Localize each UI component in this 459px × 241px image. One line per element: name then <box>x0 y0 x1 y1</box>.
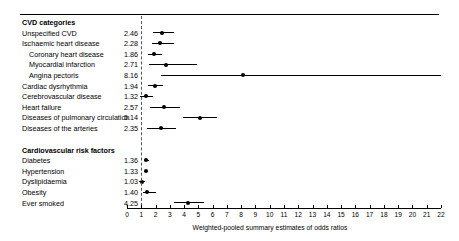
row-label: Unspecified CVD <box>22 29 77 38</box>
point-estimate-marker <box>164 63 168 67</box>
row-value: 2.35 <box>100 124 138 133</box>
row-value: 2.71 <box>100 60 138 69</box>
row-value: 8.16 <box>100 71 138 80</box>
x-axis-tick <box>156 205 157 208</box>
forest-plot: CVD categoriesUnspecified CVD2.46Ischaem… <box>0 0 459 241</box>
row-value: 2.28 <box>100 39 138 48</box>
x-axis-tick <box>298 205 299 208</box>
x-axis-tick <box>341 205 342 208</box>
point-estimate-marker <box>153 84 157 88</box>
row-value: 1.03 <box>100 177 138 186</box>
x-axis-tick <box>327 205 328 208</box>
row-value: 1.86 <box>100 50 138 59</box>
x-axis-tick <box>398 205 399 208</box>
point-estimate-marker <box>198 116 202 120</box>
x-axis-tick <box>198 205 199 208</box>
row-label: Ever smoked <box>22 199 64 208</box>
row-label: Diseases of the arteries <box>22 124 98 133</box>
point-estimate-marker <box>144 158 148 162</box>
point-estimate-marker <box>241 73 245 77</box>
x-axis-tick <box>241 205 242 208</box>
x-axis-tick <box>227 205 228 208</box>
row-value: 1.32 <box>100 92 138 101</box>
point-estimate-marker <box>159 126 163 130</box>
point-estimate-marker <box>186 201 190 205</box>
x-axis-tick <box>412 205 413 208</box>
x-axis-tick <box>127 205 128 208</box>
row-value: 5.14 <box>100 113 138 122</box>
x-axis-tick <box>213 205 214 208</box>
x-axis-tick <box>141 205 142 208</box>
top-rule <box>20 14 439 15</box>
x-axis-title: Weighted-pooled summary estimates of odd… <box>150 223 390 232</box>
confidence-interval <box>149 64 198 65</box>
row-value: 1.94 <box>100 82 138 91</box>
x-axis-tick <box>255 205 256 208</box>
point-estimate-marker <box>145 190 149 194</box>
x-axis-tick <box>370 205 371 208</box>
x-axis-tick <box>270 205 271 208</box>
confidence-interval <box>152 43 174 44</box>
row-value: 4.25 <box>100 199 138 208</box>
row-value: 2.46 <box>100 29 138 38</box>
x-axis-tick-label: 22 <box>432 211 450 219</box>
x-axis-tick <box>427 205 428 208</box>
point-estimate-marker <box>152 52 156 56</box>
row-label: Angina pectoris <box>29 71 79 80</box>
point-estimate-marker <box>144 169 148 173</box>
x-axis-tick <box>170 205 171 208</box>
row-label: Ischaemic heart disease <box>22 39 100 48</box>
x-axis-tick <box>355 205 356 208</box>
row-label: Cardiac dysrhythmia <box>22 82 88 91</box>
x-axis-tick <box>441 205 442 208</box>
reference-line <box>141 16 142 206</box>
x-axis-tick <box>384 205 385 208</box>
point-estimate-marker <box>160 31 164 35</box>
row-label: Hypertension <box>22 167 64 176</box>
confidence-interval <box>161 75 441 76</box>
row-label: Diabetes <box>22 156 50 165</box>
section-heading-1: Cardiovascular risk factors <box>22 146 115 155</box>
row-value: 1.33 <box>100 167 138 176</box>
row-value: 1.36 <box>100 156 138 165</box>
point-estimate-marker <box>158 41 162 45</box>
row-label: Dyslipidaemia <box>22 177 67 186</box>
section-heading-0: CVD categories <box>22 18 75 27</box>
x-axis-tick <box>184 205 185 208</box>
x-axis-line <box>127 208 441 209</box>
point-estimate-marker <box>144 94 148 98</box>
row-label: Obesity <box>22 188 46 197</box>
row-value: 2.57 <box>100 103 138 112</box>
x-axis-tick <box>313 205 314 208</box>
point-estimate-marker <box>162 105 166 109</box>
row-label: Myocardial infarction <box>29 60 95 69</box>
x-axis-tick <box>284 205 285 208</box>
row-label: Coronary heart disease <box>29 50 104 59</box>
row-value: 1.40 <box>100 188 138 197</box>
row-label: Heart failure <box>22 103 61 112</box>
row-label: Cerebrovascular disease <box>22 92 102 101</box>
